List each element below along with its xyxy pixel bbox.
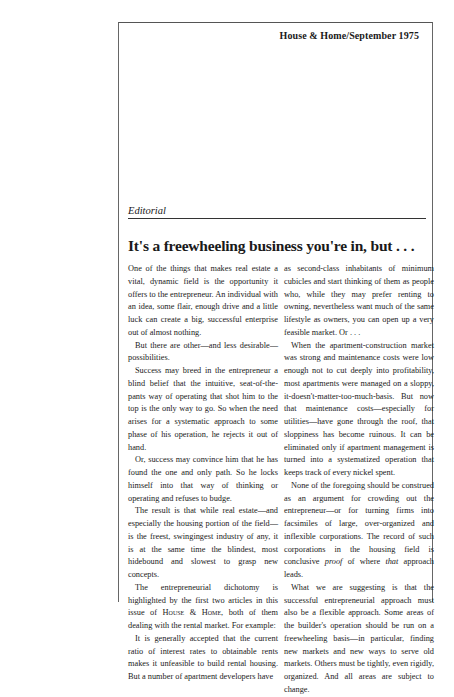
paragraph: Success may breed in the entrepreneur a … <box>128 365 278 454</box>
editorial-page-frame: House & Home/September 1975 Editorial It… <box>118 22 433 602</box>
paragraph: But there are other—and less desirable—p… <box>128 340 278 366</box>
emphasis: proof <box>325 557 343 566</box>
article-column-right: as second-class inhabitants of minimum c… <box>284 263 434 697</box>
article-column-left: One of the things that makes real estate… <box>128 263 278 684</box>
paragraph: The entrepreneurial dichotomy is highlig… <box>128 582 278 633</box>
text-run: None of the foregoing should be construe… <box>284 481 434 567</box>
paragraph: as second-class inhabitants of minimum c… <box>284 263 434 340</box>
paragraph: None of the foregoing should be construe… <box>284 480 434 582</box>
paragraph: One of the things that makes real estate… <box>128 263 278 340</box>
magazine-name: House & Home <box>163 608 222 617</box>
paragraph: Or, success may convince him that he has… <box>128 454 278 505</box>
section-divider <box>128 218 426 219</box>
emphasis: that <box>385 557 398 566</box>
paragraph: When the apartment-construction market w… <box>284 340 434 480</box>
paragraph: What we are suggesting is that the succe… <box>284 582 434 697</box>
paragraph: The result is that while real estate—and… <box>128 505 278 582</box>
publication-masthead: House & Home/September 1975 <box>280 30 419 41</box>
text-run: of where <box>342 557 385 566</box>
section-label: Editorial <box>128 205 166 216</box>
article-headline: It's a freewheeling business you're in, … <box>128 237 414 255</box>
paragraph: It is generally accepted that the curren… <box>128 633 278 684</box>
